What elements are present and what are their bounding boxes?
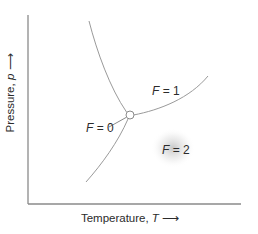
x-axis-arrow-icon: ⟶ — [162, 212, 179, 224]
x-axis-label: Temperature, T ⟶ — [81, 212, 179, 224]
y-axis-arrow-icon: ⟶ — [4, 53, 16, 70]
phase-diagram: F = 1 F = 0 F = 2 Pressure, p ⟶ Temperat… — [0, 0, 258, 234]
label-f0: F = 0 — [86, 121, 114, 135]
label-f1: F = 1 — [152, 84, 180, 98]
fusion-curve — [89, 21, 127, 112]
y-axis-label: Pressure, p ⟶ — [4, 53, 16, 132]
label-f2: F = 2 — [162, 143, 190, 157]
triple-point — [126, 111, 134, 119]
